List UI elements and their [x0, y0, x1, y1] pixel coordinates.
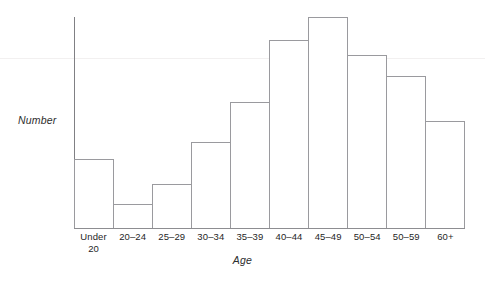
bar-20-24	[113, 204, 153, 229]
x-axis-tick-labels: Under 20 20–24 25–29 30–34 35–39 40–44 4…	[74, 231, 465, 254]
x-tick-label: 50–59	[387, 231, 426, 254]
x-tick-label: 45–49	[309, 231, 348, 254]
bar-50-59	[386, 76, 426, 229]
x-tick-label: 30–34	[191, 231, 230, 254]
x-tick-label: 25–29	[152, 231, 191, 254]
x-tick-label: Under 20	[74, 231, 113, 254]
bar-45-49	[308, 17, 348, 229]
bar-40-44	[269, 40, 309, 229]
bar-25-29	[152, 184, 192, 229]
bars-container	[74, 17, 465, 229]
bar-under-20	[74, 159, 114, 229]
x-tick-label: 35–39	[230, 231, 269, 254]
y-axis-title: Number	[18, 114, 57, 126]
bar-35-39	[230, 102, 270, 229]
bar-50-54	[347, 55, 387, 229]
x-tick-label: 40–44	[269, 231, 308, 254]
bar-30-34	[191, 142, 231, 229]
bar-60-plus	[425, 121, 465, 229]
x-tick-label: 50–54	[348, 231, 387, 254]
x-tick-label: 60+	[426, 231, 465, 254]
x-axis-title: Age	[0, 254, 485, 266]
histogram-figure: Number Under 20 20–24 25–29 30–34 35–39 …	[0, 0, 485, 283]
x-tick-label: 20–24	[113, 231, 152, 254]
x-axis-baseline	[74, 228, 465, 229]
